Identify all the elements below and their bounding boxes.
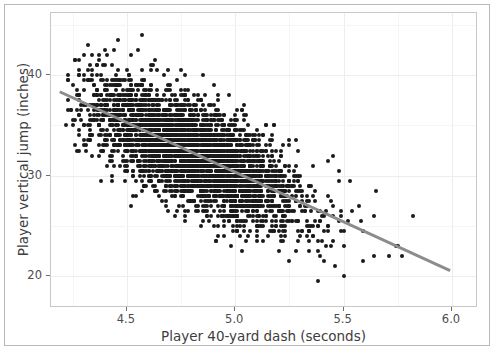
scatter-point xyxy=(179,174,183,178)
scatter-point xyxy=(246,174,250,178)
scatter-point xyxy=(84,149,88,153)
scatter-point xyxy=(199,199,203,203)
scatter-point xyxy=(274,219,278,223)
scatter-point xyxy=(277,204,281,208)
scatter-point xyxy=(216,98,220,102)
scatter-point xyxy=(222,234,226,238)
scatter-point xyxy=(183,219,187,223)
scatter-point xyxy=(136,88,140,92)
scatter-point xyxy=(201,219,205,223)
scatter-point xyxy=(331,154,335,158)
scatter-point xyxy=(257,143,261,147)
scatter-point xyxy=(105,103,109,107)
scatter-point xyxy=(164,184,168,188)
scatter-point xyxy=(251,189,255,193)
scatter-point xyxy=(203,204,207,208)
scatter-point xyxy=(294,174,298,178)
scatter-point xyxy=(248,154,252,158)
scatter-point xyxy=(220,214,224,218)
scatter-point xyxy=(225,214,229,218)
scatter-point xyxy=(339,214,343,218)
scatter-point xyxy=(190,164,194,168)
scatter-point xyxy=(222,123,226,127)
scatter-point xyxy=(316,239,320,243)
scatter-point xyxy=(350,209,354,213)
scatter-point xyxy=(294,189,298,193)
scatter-point xyxy=(272,229,276,233)
scatter-point xyxy=(255,234,259,238)
scatter-point xyxy=(240,209,244,213)
scatter-point xyxy=(238,169,242,173)
scatter-point xyxy=(218,149,222,153)
scatter-point xyxy=(281,214,285,218)
scatter-point xyxy=(196,93,200,97)
scatter-point xyxy=(66,73,70,77)
scatter-point xyxy=(279,224,283,228)
scatter-point xyxy=(77,128,81,132)
scatter-point xyxy=(264,174,268,178)
scatter-point xyxy=(255,128,259,132)
scatter-point xyxy=(207,184,211,188)
scatter-point xyxy=(66,78,70,82)
scatter-point xyxy=(313,189,317,193)
scatter-point xyxy=(196,113,200,117)
scatter-point xyxy=(131,174,135,178)
scatter-point xyxy=(240,204,244,208)
scatter-point xyxy=(216,224,220,228)
scatter-point xyxy=(147,159,151,163)
scatter-point xyxy=(181,194,185,198)
scatter-point xyxy=(186,98,190,102)
scatter-point xyxy=(88,63,92,67)
scatter-point xyxy=(292,179,296,183)
scatter-point xyxy=(77,73,81,77)
scatter-point xyxy=(313,199,317,203)
scatter-point xyxy=(134,194,138,198)
scatter-point xyxy=(164,179,168,183)
scatter-point xyxy=(186,174,190,178)
scatter-point xyxy=(173,113,177,117)
scatter-point xyxy=(153,149,157,153)
scatter-point xyxy=(79,108,83,112)
scatter-point xyxy=(235,118,239,122)
scatter-point xyxy=(105,78,109,82)
scatter-point xyxy=(110,63,114,67)
scatter-point xyxy=(298,174,302,178)
scatter-point xyxy=(272,194,276,198)
scatter-point xyxy=(270,164,274,168)
scatter-point xyxy=(162,154,166,158)
y-tick-mark xyxy=(46,275,50,276)
scatter-point xyxy=(244,189,248,193)
scatter-point xyxy=(147,169,151,173)
scatter-point xyxy=(203,154,207,158)
scatter-point xyxy=(240,159,244,163)
scatter-point xyxy=(112,48,116,52)
scatter-point xyxy=(281,239,285,243)
scatter-point xyxy=(255,209,259,213)
scatter-point xyxy=(190,154,194,158)
scatter-point xyxy=(305,224,309,228)
scatter-point xyxy=(183,154,187,158)
scatter-point xyxy=(259,159,263,163)
scatter-point xyxy=(190,174,194,178)
scatter-point xyxy=(281,219,285,223)
scatter-point xyxy=(123,179,127,183)
scatter-point xyxy=(121,154,125,158)
scatter-point xyxy=(149,179,153,183)
scatter-point xyxy=(279,234,283,238)
scatter-point xyxy=(251,159,255,163)
x-tick-mark xyxy=(343,307,344,311)
scatter-point xyxy=(272,189,276,193)
scatter-point xyxy=(194,159,198,163)
scatter-point xyxy=(242,118,246,122)
scatter-point xyxy=(322,259,326,263)
scatter-point xyxy=(116,103,120,107)
scatter-point xyxy=(97,98,101,102)
scatter-point xyxy=(183,73,187,77)
scatter-point xyxy=(207,179,211,183)
scatter-point xyxy=(229,244,233,248)
scatter-point xyxy=(140,83,144,87)
scatter-point xyxy=(296,219,300,223)
scatter-point xyxy=(270,209,274,213)
scatter-point xyxy=(123,159,127,163)
scatter-point xyxy=(168,88,172,92)
